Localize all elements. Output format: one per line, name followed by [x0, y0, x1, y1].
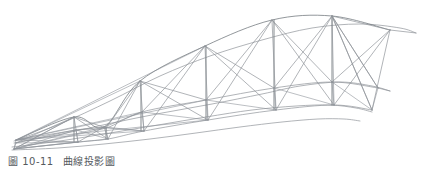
web-mid-t3-mnext	[140, 81, 206, 100]
web-diagonal-t3-b4	[140, 81, 208, 120]
figure-caption: 圖 10-11曲線投影圖	[8, 155, 115, 168]
curved-truss-projection-diagram	[0, 0, 424, 170]
right-tail-top	[332, 16, 390, 30]
web-mid-t5-mprev	[206, 20, 272, 100]
web-diagonal-t6-bprev5	[276, 16, 332, 110]
figure-caption-title: 曲線投影圖	[63, 155, 116, 168]
diagram-line-layer	[12, 15, 416, 150]
depth-edge-m4-b5	[206, 100, 276, 110]
depth-edge-m5-b6	[274, 88, 334, 105]
web-diagonal-t4-b5	[205, 46, 276, 110]
web-mid-t0-mnext	[16, 130, 76, 140]
depth-edge-m7-b7	[372, 88, 378, 110]
upper-chord-through-nodes	[16, 15, 390, 140]
figure-caption-number: 圖 10-11	[8, 155, 54, 168]
web-mid-t4-mnext	[205, 46, 274, 88]
left-tail-ray-0	[14, 117, 74, 149]
depth-edge-m3-b4	[142, 112, 208, 120]
web-mid-t6-mprev	[274, 16, 332, 88]
figure-container: 圖 10-11曲線投影圖	[0, 0, 424, 170]
web-mid-t5-mnext	[272, 20, 332, 82]
vanishing-ray-1	[16, 46, 205, 140]
right-tail-extension-mid	[378, 88, 390, 91]
web-mid-t7-mprev	[332, 30, 390, 82]
web-mid-t2-mnext	[104, 112, 142, 127]
web-diagonal-t5-b6	[272, 20, 334, 105]
